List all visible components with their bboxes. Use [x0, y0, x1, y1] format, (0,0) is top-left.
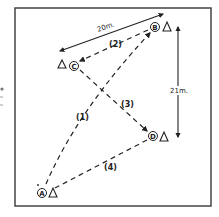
point-b: B — [151, 22, 172, 32]
point-d-label: D — [150, 133, 156, 141]
dimension-height-label: 21m. — [170, 87, 188, 95]
path-3-c-to-d: (3) — [80, 70, 147, 131]
cone-triangle-icon — [163, 22, 171, 31]
point-d: D — [149, 132, 169, 142]
path-4-d-to-a: (4) — [55, 140, 147, 188]
path-2-label: (2) — [109, 40, 122, 49]
path-1-label: (1) — [76, 113, 89, 122]
dimension-height: 21m. — [169, 27, 188, 137]
path-4-label: (4) — [104, 163, 117, 172]
cone-triangle-icon — [58, 60, 66, 68]
point-a: A — [37, 184, 57, 197]
path-3-label: (3) — [121, 100, 134, 109]
cone-triangle-icon — [49, 188, 57, 197]
point-b-label: B — [152, 24, 157, 32]
point-c-label: C — [71, 63, 76, 71]
field-boundary — [15, 8, 211, 206]
left-edge-fragment — [0, 87, 4, 105]
point-a-label: A — [39, 190, 45, 198]
point-c: C — [58, 60, 79, 71]
drill-diagram: 20m. 21m. (1) (2) (3) (4) A B — [0, 0, 219, 217]
cone-triangle-icon — [160, 132, 168, 141]
path-1-a-to-b: (1) — [46, 33, 150, 184]
